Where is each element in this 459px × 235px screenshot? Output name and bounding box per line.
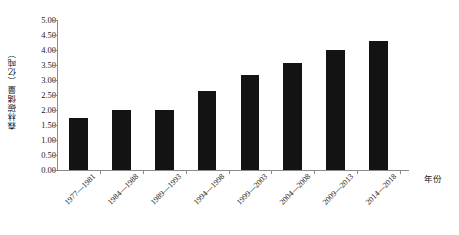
x-tick-label: 1984—1988 [106, 172, 141, 207]
x-tick-label: 1977—1981 [63, 172, 98, 207]
y-tick-label: 4.00 [22, 45, 56, 55]
plot-area [57, 20, 400, 170]
y-axis-title-label: 森林碳储量（亿吨） [9, 49, 18, 130]
y-tick-mark [53, 20, 57, 21]
bar [241, 75, 260, 170]
y-tick-mark [53, 95, 57, 96]
forest-carbon-storage-bar-chart: 森林碳储量（亿吨） 0.000.501.001.502.002.503.003.… [0, 0, 459, 235]
y-tick-mark [53, 35, 57, 36]
x-tick-label: 1994—1998 [192, 172, 227, 207]
y-tick-label: 0.50 [22, 150, 56, 160]
y-tick-label: 2.50 [22, 90, 56, 100]
y-tick-mark [53, 155, 57, 156]
y-tick-label: 3.50 [22, 60, 56, 70]
y-tick-mark [53, 140, 57, 141]
x-tick-label: 1999—2003 [235, 172, 270, 207]
bar [155, 110, 174, 170]
x-tick-label: 2004—2008 [278, 172, 313, 207]
y-tick-mark [53, 65, 57, 66]
bar [326, 50, 345, 170]
y-tick-label: 1.00 [22, 135, 56, 145]
y-tick-label: 1.50 [22, 120, 56, 130]
bars-layer [57, 20, 400, 170]
x-axis-tick-labels: 1977—19811984—19881989—19931994—19981999… [57, 170, 457, 235]
bar [283, 63, 302, 170]
bar [369, 41, 388, 170]
x-tick-label: 1989—1993 [149, 172, 184, 207]
bar [112, 110, 131, 170]
y-tick-mark [53, 125, 57, 126]
y-axis-tick-labels: 0.000.501.001.502.002.503.003.504.004.50… [18, 0, 56, 235]
y-tick-label: 5.00 [22, 15, 56, 25]
x-tick-label: 2014—2018 [363, 172, 398, 207]
y-tick-label: 2.00 [22, 105, 56, 115]
x-tick-label: 2009—2013 [320, 172, 355, 207]
y-tick-mark [53, 110, 57, 111]
y-tick-label: 0.00 [22, 165, 56, 175]
y-tick-mark [53, 80, 57, 81]
y-tick-label: 3.00 [22, 75, 56, 85]
bar [69, 118, 88, 171]
y-tick-label: 4.50 [22, 30, 56, 40]
y-tick-mark [53, 50, 57, 51]
x-axis-title: 年份 [424, 172, 442, 184]
bar [198, 91, 217, 170]
